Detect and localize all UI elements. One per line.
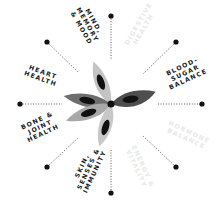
spoke-bottom-right (142, 135, 176, 167)
dot-top[interactable] (108, 13, 113, 18)
dot-bottom-left[interactable] (44, 164, 49, 169)
dot-right[interactable] (199, 101, 204, 106)
wellness-flower-diagram (0, 0, 218, 209)
dot-bottom[interactable] (108, 190, 113, 195)
spoke-bottom-left (47, 137, 79, 167)
petals (62, 59, 157, 148)
dot-left[interactable] (17, 101, 22, 106)
dot-top-right[interactable] (173, 39, 178, 44)
petal-right[interactable] (110, 88, 158, 109)
dot-top-left[interactable] (44, 39, 49, 44)
spoke-top-left (47, 42, 78, 72)
center-hub (107, 100, 114, 107)
dot-bottom-right[interactable] (173, 164, 178, 169)
